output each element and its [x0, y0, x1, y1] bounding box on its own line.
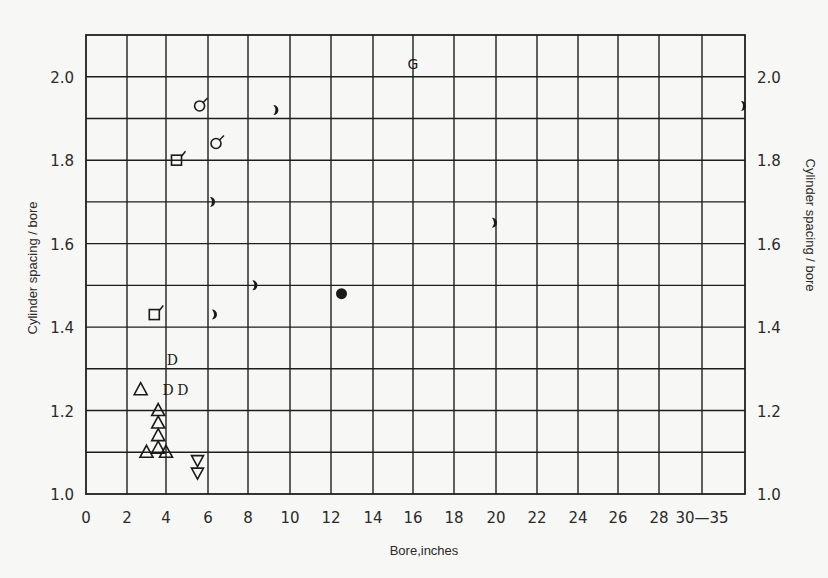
y-tick-label-right: 1.8: [757, 152, 781, 170]
data-point-triangle-down-open: [192, 468, 204, 479]
x-tick-label: 20: [486, 509, 505, 527]
data-point-square-open-flag: [172, 151, 186, 165]
data-point-triangle-up-open: [152, 404, 165, 416]
x-tick-label: 18: [444, 509, 463, 527]
y-tick-label-left: 1.2: [50, 403, 74, 421]
x-tick-label: 28: [649, 509, 668, 527]
y-tick-label-left: 2.0: [50, 69, 74, 87]
data-point-circle-open-flag: [195, 98, 208, 111]
svg-text:G: G: [408, 56, 419, 72]
svg-text:D: D: [162, 382, 173, 398]
x-tick-label: 26: [608, 509, 627, 527]
x-tick-label: 24: [568, 509, 587, 527]
x-tick-label: 10: [280, 509, 299, 527]
y-tick-label-left: 1.4: [50, 319, 74, 337]
x-tick-label: 30—35: [675, 509, 728, 527]
svg-text:D: D: [167, 352, 178, 368]
data-point-half-circle: [212, 310, 217, 320]
y-tick-label-right: 1.0: [757, 486, 781, 504]
x-tick-label: 0: [81, 509, 91, 527]
data-point-triangle-up-open: [152, 416, 165, 428]
data-point-triangle-up-open: [134, 383, 147, 395]
y-axis-title-right: Cylinder spacing / bore: [803, 159, 818, 292]
x-tick-label: 22: [527, 509, 546, 527]
x-tick-label: 8: [243, 509, 253, 527]
x-tick-label: 6: [203, 509, 213, 527]
svg-text:D: D: [177, 382, 188, 398]
data-point-triangle-up-open: [140, 445, 153, 457]
x-axis-ticks: 024681012141618202224262830—35: [81, 509, 728, 527]
plot-frame: [86, 35, 745, 494]
data-point-letter-D: D: [177, 382, 188, 398]
data-point-triangle-down-open: [192, 456, 204, 467]
data-point-letter-D: D: [162, 382, 173, 398]
data-point-circle-open-flag: [211, 135, 224, 148]
data-point-letter-G: G: [408, 56, 419, 72]
y-tick-label-left: 1.6: [50, 236, 74, 254]
y-axis-ticks-left: 1.01.21.41.61.82.0: [50, 69, 74, 504]
x-tick-label: 2: [122, 509, 132, 527]
y-tick-label-right: 1.4: [757, 319, 781, 337]
data-point-triangle-up-open: [152, 429, 165, 441]
x-tick-label: 16: [403, 509, 422, 527]
x-tick-label: 4: [161, 509, 171, 527]
data-points: GDDD: [134, 56, 746, 479]
y-axis-ticks-right: 1.01.21.41.61.82.0: [757, 69, 781, 504]
x-axis-title: Bore,inches: [390, 543, 459, 558]
data-point-half-circle: [273, 105, 278, 115]
y-tick-label-right: 1.2: [757, 403, 781, 421]
scatter-chart: 024681012141618202224262830—35 1.01.21.4…: [0, 0, 828, 578]
x-tick-label: 12: [321, 509, 340, 527]
y-tick-label-right: 1.6: [757, 236, 781, 254]
data-point-circle-filled: [336, 288, 347, 299]
y-tick-label-left: 1.0: [50, 486, 74, 504]
y-tick-label-left: 1.8: [50, 152, 74, 170]
data-point-letter-D: D: [167, 352, 178, 368]
y-tick-label-right: 2.0: [757, 69, 781, 87]
x-tick-label: 14: [363, 509, 382, 527]
plot-grid: [86, 35, 745, 494]
data-point-square-open-flag: [149, 306, 163, 320]
y-axis-title-left: Cylinder spacing / bore: [25, 202, 40, 335]
